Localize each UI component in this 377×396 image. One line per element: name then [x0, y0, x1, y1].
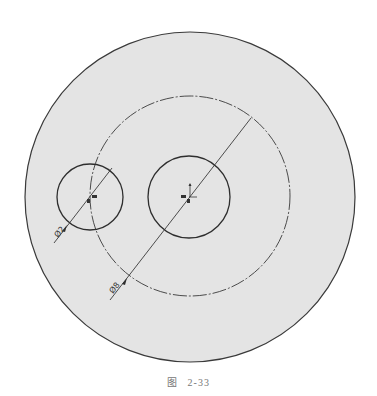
caption-number: 2-33 — [188, 377, 210, 388]
figure-caption: 图 2-33 — [0, 374, 377, 389]
sketch-drawing: Ø2 Ø8 — [0, 0, 377, 396]
caption-prefix: 图 — [167, 377, 178, 388]
